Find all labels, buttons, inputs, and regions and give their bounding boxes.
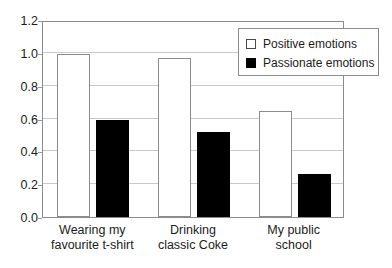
x-axis-label-line: Drinking — [143, 223, 244, 238]
x-axis-label-line: school — [243, 238, 344, 253]
y-tick-label: 0.0 — [6, 212, 38, 225]
legend-item-passionate: Passionate emotions — [246, 53, 378, 72]
x-axis-labels: Wearing myfavourite t-shirtDrinkingclass… — [42, 223, 344, 265]
x-axis-label-line: My public — [243, 223, 344, 238]
bar-passionate-2 — [298, 174, 331, 218]
legend-label-passionate: Passionate emotions — [263, 57, 374, 69]
y-tick-mark — [38, 218, 42, 219]
x-axis-label-0: Wearing myfavourite t-shirt — [42, 223, 143, 253]
bar-passionate-1 — [197, 132, 230, 217]
x-axis-label-line: Wearing my — [42, 223, 143, 238]
bar-positive-1 — [158, 58, 191, 217]
x-axis-label-2: My publicschool — [243, 223, 344, 253]
x-axis-label-1: Drinkingclassic Coke — [143, 223, 244, 253]
x-axis-label-line: classic Coke — [143, 238, 244, 253]
filled-square-swatch-icon — [246, 58, 256, 68]
bar-chart: 0.00.20.40.60.81.01.2 Positive emotions … — [0, 0, 392, 268]
bar-passionate-0 — [96, 120, 129, 217]
open-square-swatch-icon — [246, 39, 256, 49]
legend-item-positive: Positive emotions — [246, 34, 378, 53]
y-tick-label: 0.4 — [6, 146, 38, 159]
bar-positive-2 — [259, 111, 292, 217]
legend: Positive emotions Passionate emotions — [238, 28, 379, 76]
y-tick-label: 1.0 — [6, 48, 38, 61]
x-axis-label-line: favourite t-shirt — [42, 238, 143, 253]
bar-positive-0 — [57, 54, 90, 217]
y-tick-label: 0.8 — [6, 80, 38, 93]
y-tick-label: 0.2 — [6, 179, 38, 192]
y-tick-label: 0.6 — [6, 113, 38, 126]
legend-label-positive: Positive emotions — [263, 38, 357, 50]
y-tick-label: 1.2 — [6, 15, 38, 28]
